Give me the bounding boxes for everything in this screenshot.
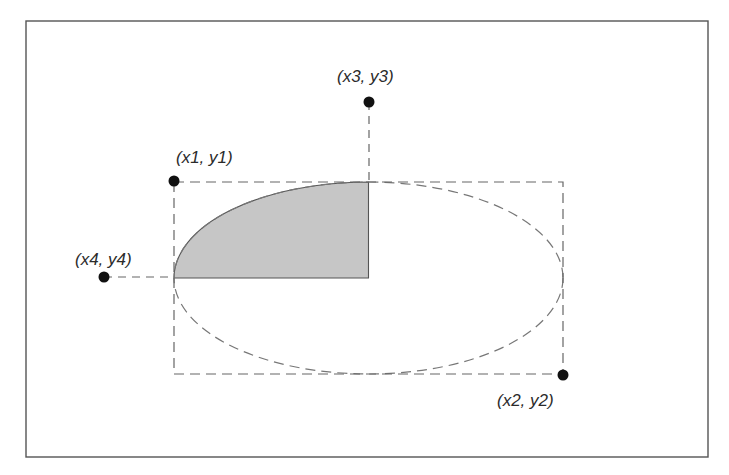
point-x3-y3-dot [364,97,375,108]
ellipse-arc-diagram: (x1, y1) (x2, y2) (x3, y3) (x4, y4) [0,0,729,475]
label-x2-y2: (x2, y2) [497,391,554,410]
label-x4-y4: (x4, y4) [75,250,132,269]
point-x2-y2-dot [558,370,569,381]
label-x3-y3: (x3, y3) [337,67,394,86]
point-x1-y1-dot [169,176,180,187]
point-x4-y4-dot [99,272,110,283]
label-x1-y1: (x1, y1) [176,148,233,167]
